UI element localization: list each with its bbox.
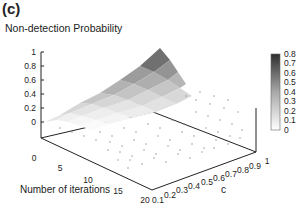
svg-text:0.7: 0.7: [284, 58, 296, 68]
svg-text:0.2: 0.2: [24, 103, 36, 113]
svg-text:0.3: 0.3: [284, 96, 296, 106]
svg-text:0.8: 0.8: [237, 165, 249, 175]
colorbar-ticks: 0.8 0.7 0.6 0.5 0.4 0.3 0.2 0.1 0: [284, 49, 296, 135]
svg-text:0.5: 0.5: [201, 177, 213, 187]
surface-plot: 1 0.8 0.6 0.4 0.2 0: [0, 0, 302, 218]
svg-text:0.3: 0.3: [176, 185, 188, 195]
svg-text:0: 0: [31, 117, 36, 127]
svg-text:15: 15: [113, 186, 123, 196]
colorbar: [271, 54, 280, 130]
svg-text:0.2: 0.2: [164, 190, 176, 200]
svg-text:5: 5: [58, 163, 63, 173]
svg-text:0.7: 0.7: [225, 169, 237, 179]
svg-text:0.4: 0.4: [24, 89, 36, 99]
svg-text:20: 20: [140, 195, 150, 205]
svg-text:0.1: 0.1: [284, 115, 296, 125]
svg-text:0.4: 0.4: [188, 181, 200, 191]
svg-text:0.6: 0.6: [24, 75, 36, 85]
svg-text:0.8: 0.8: [24, 61, 36, 71]
svg-text:0.6: 0.6: [213, 173, 225, 183]
svg-text:1: 1: [265, 156, 270, 166]
y-ticks: 0.1 0.2 0.3 0.4 0.5 0.6 0.7 0.8 0.9 1: [152, 156, 270, 205]
svg-text:0.1: 0.1: [152, 195, 164, 205]
surface: [45, 48, 192, 130]
y-axis-label: c: [221, 184, 226, 195]
x-axis-label: Number of iterations: [20, 184, 110, 195]
svg-text:0.5: 0.5: [284, 77, 296, 87]
svg-text:0: 0: [32, 153, 37, 163]
svg-text:0: 0: [284, 125, 289, 135]
svg-text:1: 1: [31, 47, 36, 57]
svg-text:0.9: 0.9: [249, 161, 261, 171]
